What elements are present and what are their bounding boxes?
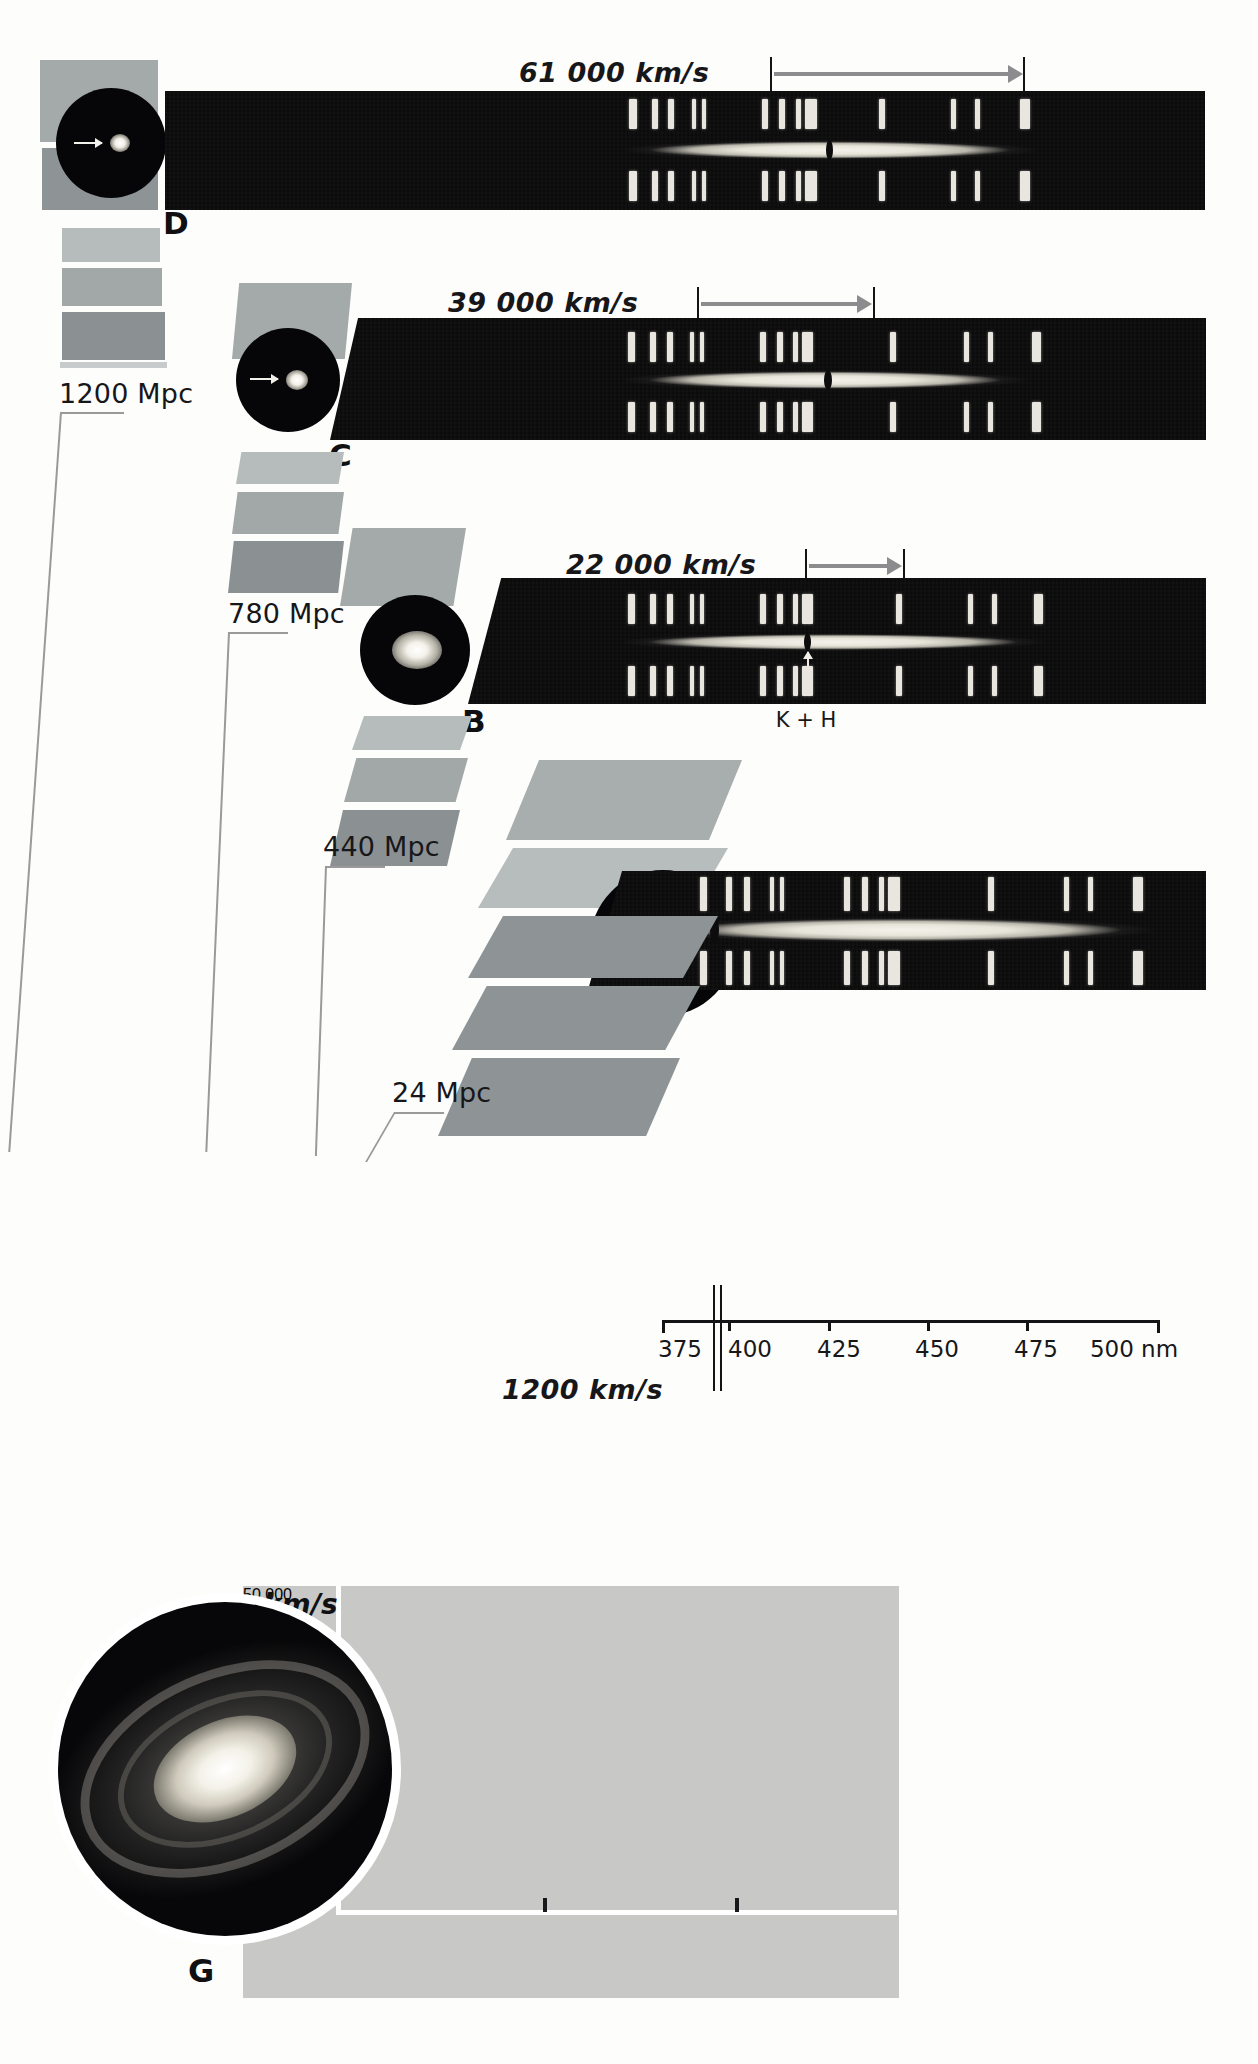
figure-root: D 61 000 km/s [0,0,1258,2064]
panel-a: A [0,0,1258,1360]
distance-rung-a-3 [468,916,718,978]
comparison-lines-top-a [588,877,1206,911]
plot-y-label-50000: 50 000 [243,1586,899,1604]
distance-rung-a-4 [452,986,700,1050]
hubble-diagram [240,1168,898,1502]
galaxy-label-g: G [188,1952,214,1990]
galaxy-disk-g [58,1602,392,1936]
galaxy-spectrum-band-a [646,917,1158,943]
leader-a-horizontal [394,1112,444,1114]
plot-x-tick-500 [543,1898,547,1912]
distance-rung-a-1 [506,760,742,840]
ruler-end-right [1157,1320,1160,1333]
distance-label-a: 24 Mpc [392,1077,491,1108]
leader-a-vertical [365,1112,396,1162]
plot-x-axis [336,1910,897,1915]
ruler-label-475: 475 [1014,1336,1058,1362]
ruler-tick-450 [927,1320,930,1331]
plot-x-tick-1000 [735,1898,739,1912]
ruler-label-450: 450 [915,1336,959,1362]
ruler-tick-475 [1026,1320,1029,1331]
ruler-label-500nm: 500 nm [1090,1336,1178,1362]
